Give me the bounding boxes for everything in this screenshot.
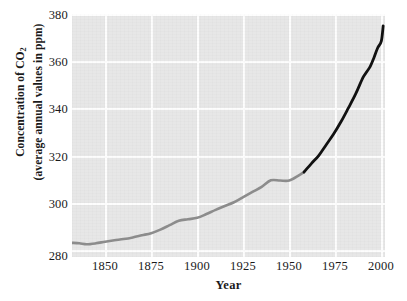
xtick-label: 1950 [266,260,312,273]
plot-area [72,14,385,257]
data-series-canvas [72,14,385,257]
xtick-label: 1925 [220,260,266,273]
line-series-ice-core [72,172,304,244]
xtick-label: 1850 [82,260,128,273]
xtick-label: 1875 [128,260,174,273]
y-axis-title: Concentration of CO2 (average annual val… [11,0,47,207]
x-axis-title: Year [72,278,385,293]
ytick-label: 280 [34,250,68,262]
y-axis-title-line1: Concentration of CO2 [14,47,26,157]
xtick-label: 2000 [358,260,404,273]
xtick-label: 1900 [174,260,220,273]
y-axis-title-subscript: 2 [19,47,28,51]
y-axis-title-line2: (average annual values in ppm) [31,24,45,181]
co2-concentration-chart: 380 360 340 320 300 280 Concentration of… [0,0,407,301]
xtick-label: 1975 [312,260,358,273]
line-series-mauna-loa [304,26,383,172]
